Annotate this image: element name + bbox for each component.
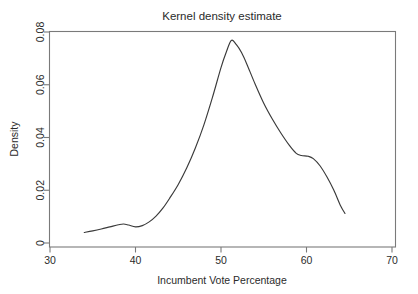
x-tick-label-1: 40 (130, 254, 142, 266)
x-tick-label-3: 60 (301, 254, 313, 266)
y-tick-label-3: 0.06 (34, 74, 46, 95)
y-tick-label-2: 0.04 (34, 127, 46, 148)
density-curve-line (84, 40, 345, 232)
kernel-density-chart: Kernel density estimate Density Incumben… (0, 0, 418, 294)
x-tick-label-0: 30 (44, 254, 56, 266)
y-axis-ticks: 0 0.02 0.04 0.06 0.08 (34, 22, 50, 246)
y-tick-label-4: 0.08 (34, 22, 46, 43)
y-tick-label-0: 0 (34, 240, 46, 246)
x-axis-title: Incumbent Vote Percentage (157, 274, 287, 286)
x-tick-label-2: 50 (215, 254, 227, 266)
x-axis-ticks: 30 40 50 60 70 (44, 247, 398, 266)
chart-canvas: Kernel density estimate Density Incumben… (0, 0, 418, 294)
y-axis-title: Density (8, 121, 20, 157)
x-tick-label-4: 70 (386, 254, 398, 266)
chart-title: Kernel density estimate (162, 10, 282, 22)
y-tick-label-1: 0.02 (34, 180, 46, 201)
